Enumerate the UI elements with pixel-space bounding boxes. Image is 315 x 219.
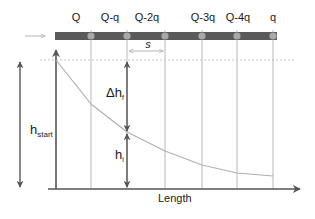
- outlet-icon: [198, 32, 205, 39]
- outlet-label: Q-3q: [191, 11, 215, 23]
- outlet-icon: [269, 32, 276, 39]
- h-i-label: hi: [115, 147, 124, 163]
- outlet-icon: [123, 32, 130, 39]
- outlet-label: Q-q: [101, 11, 119, 23]
- delta-hf-label: Δhf: [106, 85, 124, 101]
- h-start-label: hstart: [30, 122, 54, 139]
- outlet-label: q: [270, 11, 276, 23]
- outlet-label: Q-4q: [226, 11, 250, 23]
- outlet-icon: [87, 32, 94, 39]
- lateral-headloss-diagram: Q Q-q Q-2q Q-3q Q-4q q s Length hstart Δ…: [0, 0, 315, 219]
- spacing-label: s: [145, 38, 151, 50]
- outlet-grid-lines: [91, 30, 273, 189]
- outlet-label: Q-2q: [135, 11, 159, 23]
- outlet-icon: [161, 32, 168, 39]
- x-axis-label: Length: [158, 192, 192, 204]
- outlet-icon: [233, 32, 240, 39]
- outlet-labels: Q Q-q Q-2q Q-3q Q-4q q: [72, 11, 276, 23]
- outlet-label: Q: [72, 11, 81, 23]
